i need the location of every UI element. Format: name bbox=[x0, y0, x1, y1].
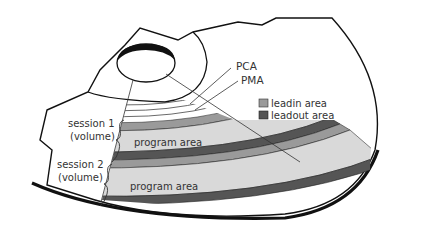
session2-label-line1: session 2 bbox=[57, 159, 104, 170]
legend-swatch-leadout bbox=[259, 111, 268, 119]
center-hole bbox=[117, 44, 175, 82]
session2-label-line2: (volume) bbox=[58, 172, 103, 183]
legend-label-leadin: leadin area bbox=[271, 98, 327, 109]
legend-swatch-leadin bbox=[259, 99, 268, 107]
session1-label-line1: session 1 bbox=[68, 118, 115, 129]
program-area-2-label: program area bbox=[130, 181, 198, 192]
program-area-1-label: program area bbox=[134, 137, 202, 148]
session1-label-line2: (volume) bbox=[70, 131, 115, 142]
legend-label-leadout: leadout area bbox=[271, 110, 334, 121]
multisession-disc-diagram: PCA PMA session 1 (volume) session 2 (vo… bbox=[0, 0, 430, 232]
legend: leadin area leadout area bbox=[259, 98, 334, 121]
pca-label: PCA bbox=[236, 60, 258, 72]
pma-label: PMA bbox=[241, 74, 264, 86]
